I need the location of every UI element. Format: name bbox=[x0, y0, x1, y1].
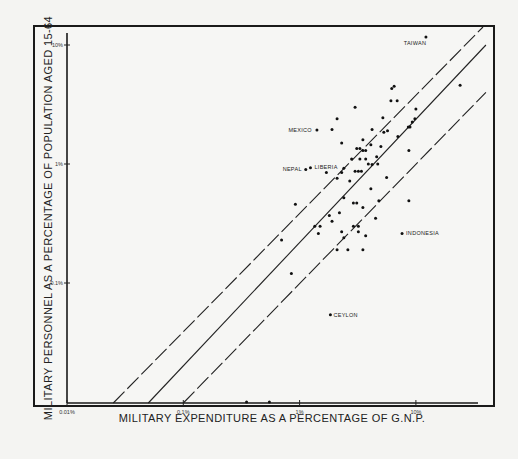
data-point bbox=[336, 177, 339, 180]
point-label-ceylon: CEYLON bbox=[333, 312, 357, 318]
data-point bbox=[360, 170, 363, 173]
data-point bbox=[340, 230, 343, 233]
data-point bbox=[411, 121, 414, 124]
data-points bbox=[245, 35, 462, 403]
data-point bbox=[361, 149, 364, 152]
data-point bbox=[325, 171, 328, 174]
data-point bbox=[354, 170, 357, 173]
data-point bbox=[371, 163, 374, 166]
data-point bbox=[331, 220, 334, 223]
lower-band-line bbox=[183, 92, 486, 403]
labeled-data-point bbox=[304, 168, 307, 171]
data-point bbox=[319, 225, 322, 228]
data-point bbox=[371, 128, 374, 131]
x-tick-label: 0.01% bbox=[59, 409, 75, 415]
data-point bbox=[348, 179, 351, 182]
data-point bbox=[342, 236, 345, 239]
data-point bbox=[338, 211, 341, 214]
data-point bbox=[413, 117, 416, 120]
data-point bbox=[459, 84, 462, 87]
data-point bbox=[294, 203, 297, 206]
data-point bbox=[268, 401, 271, 404]
point-label-liberia: LIBERIA bbox=[314, 164, 337, 170]
data-point bbox=[379, 145, 382, 148]
data-point bbox=[389, 99, 392, 102]
data-point bbox=[396, 99, 399, 102]
data-point bbox=[358, 147, 361, 150]
data-point bbox=[376, 163, 379, 166]
data-point bbox=[374, 217, 377, 220]
data-point bbox=[369, 143, 372, 146]
data-point bbox=[342, 196, 345, 199]
data-point bbox=[377, 199, 380, 202]
data-point bbox=[407, 199, 410, 202]
y-tick-label: 1% bbox=[55, 161, 63, 167]
scatter-plot: 0.01%0.1%1%10% 10%1%0.1% TAIWANMEXICOLIB… bbox=[0, 0, 518, 459]
labeled-data-point bbox=[401, 232, 404, 235]
data-point bbox=[346, 248, 349, 251]
data-point bbox=[336, 117, 339, 120]
data-point bbox=[331, 128, 334, 131]
point-label-mexico: MEXICO bbox=[288, 127, 312, 133]
data-point bbox=[355, 202, 358, 205]
data-point bbox=[340, 171, 343, 174]
data-point bbox=[355, 147, 358, 150]
data-point bbox=[357, 230, 360, 233]
labeled-data-point bbox=[424, 35, 427, 38]
data-point bbox=[364, 149, 367, 152]
point-labels: TAIWANMEXICOLIBERIANEPALINDONESIACEYLON bbox=[283, 40, 439, 318]
data-point bbox=[317, 232, 320, 235]
data-point bbox=[357, 170, 360, 173]
data-point bbox=[396, 135, 399, 138]
data-point bbox=[352, 225, 355, 228]
data-point bbox=[367, 163, 370, 166]
reference-lines bbox=[113, 27, 486, 403]
data-point bbox=[313, 225, 316, 228]
data-point bbox=[369, 187, 372, 190]
data-point bbox=[354, 106, 357, 109]
upper-band-line bbox=[113, 27, 483, 403]
x-axis-title: MILITARY EXPENDITURE AS A PERCENTAGE OF … bbox=[119, 412, 426, 424]
data-point bbox=[290, 272, 293, 275]
labeled-data-point bbox=[315, 129, 318, 132]
data-point bbox=[361, 138, 364, 141]
data-point bbox=[409, 125, 412, 128]
data-point bbox=[245, 401, 248, 404]
labeled-data-point bbox=[309, 166, 312, 169]
y-axis-title: MILITARY PERSONNEL AS A PERCENTAGE OF PO… bbox=[42, 16, 54, 420]
data-point bbox=[381, 116, 384, 119]
data-point bbox=[342, 167, 345, 170]
labeled-data-point bbox=[329, 313, 332, 316]
data-point bbox=[364, 158, 367, 161]
data-point bbox=[382, 131, 385, 134]
data-point bbox=[280, 238, 283, 241]
data-point bbox=[328, 214, 331, 217]
point-label-nepal: NEPAL bbox=[283, 166, 302, 172]
data-point bbox=[364, 234, 367, 237]
data-point bbox=[385, 176, 388, 179]
point-label-taiwan: TAIWAN bbox=[404, 40, 427, 46]
axes bbox=[67, 33, 478, 403]
data-point bbox=[357, 225, 360, 228]
data-point bbox=[361, 248, 364, 251]
data-point bbox=[340, 142, 343, 145]
regression-line bbox=[148, 45, 486, 403]
data-point bbox=[352, 202, 355, 205]
data-point bbox=[390, 87, 393, 90]
data-point bbox=[407, 149, 410, 152]
data-point bbox=[358, 158, 361, 161]
data-point bbox=[414, 107, 417, 110]
point-label-indonesia: INDONESIA bbox=[406, 230, 439, 236]
data-point bbox=[361, 206, 364, 209]
data-point bbox=[386, 129, 389, 132]
data-point bbox=[350, 158, 353, 161]
data-point bbox=[375, 155, 378, 158]
data-point bbox=[336, 248, 339, 251]
data-point bbox=[393, 85, 396, 88]
